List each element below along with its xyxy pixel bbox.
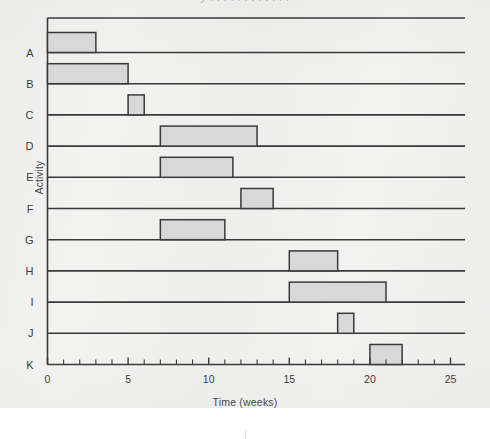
x-axis-tick-labels-group: 0510152025	[45, 373, 457, 385]
gantt-chart: ABCDEFGHIJK 0510152025	[0, 0, 490, 439]
y-axis-tick-label-E: E	[26, 171, 33, 183]
x-axis-title: Time (weeks)	[0, 396, 490, 408]
gantt-bar-E[interactable]	[160, 157, 233, 177]
y-axis-tick-label-B: B	[26, 78, 33, 90]
gantt-bar-A[interactable]	[48, 33, 96, 53]
gantt-bar-F[interactable]	[241, 189, 273, 209]
y-axis-tick-label-G: G	[25, 234, 34, 246]
x-axis-tick-label-20: 20	[364, 373, 376, 385]
gantt-bar-I[interactable]	[289, 282, 386, 302]
gantt-bar-D[interactable]	[160, 126, 257, 146]
y-axis-tick-label-H: H	[26, 265, 34, 277]
gantt-bar-J[interactable]	[338, 313, 354, 333]
gantt-bar-B[interactable]	[48, 64, 129, 84]
x-axis-tick-label-15: 15	[283, 373, 295, 385]
x-axis-tick-label-5: 5	[125, 373, 131, 385]
gantt-bar-G[interactable]	[160, 220, 224, 240]
y-axis-tick-label-A: A	[26, 47, 34, 59]
y-axis-tick-label-D: D	[26, 140, 34, 152]
y-axis-tick-label-C: C	[26, 109, 34, 121]
gantt-chart-svg: ABCDEFGHIJK 0510152025	[0, 0, 490, 439]
gantt-bars-group	[48, 33, 403, 365]
y-axis-tick-label-J: J	[28, 327, 34, 339]
gantt-bar-H[interactable]	[289, 251, 337, 271]
x-axis-tick-label-25: 25	[445, 373, 457, 385]
y-axis-tick-label-I: I	[30, 296, 33, 308]
gantt-bar-C[interactable]	[128, 95, 144, 115]
y-axis-tick-label-K: K	[26, 359, 34, 371]
x-axis-tick-label-0: 0	[45, 373, 51, 385]
x-axis-tick-label-10: 10	[203, 373, 215, 385]
y-axis-title: Activity	[34, 143, 45, 213]
